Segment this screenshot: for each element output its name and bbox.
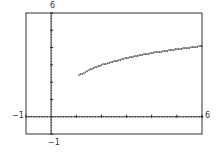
y-axis-dot <box>51 50 52 51</box>
x-axis-dot <box>175 116 176 117</box>
curve-point <box>145 53 146 54</box>
curve-point <box>123 58 124 59</box>
curve-point <box>91 68 92 69</box>
y-axis-dot <box>51 109 52 110</box>
x-axis-dot <box>167 116 168 117</box>
curve-point <box>107 62 108 63</box>
x-axis-dot <box>58 116 59 117</box>
x-axis-dot <box>90 116 91 117</box>
x-axis-dot <box>47 116 48 117</box>
curve-point <box>131 56 132 57</box>
y-axis-dot <box>51 26 52 27</box>
x-axis-dot <box>66 116 67 117</box>
x-axis-dot <box>181 116 182 117</box>
x-axis-dot <box>103 116 104 117</box>
curve-point <box>106 63 107 64</box>
curve-point <box>148 53 149 54</box>
x-axis-dot <box>117 116 118 117</box>
xmax-label: 6 <box>205 112 210 120</box>
curve-point <box>110 61 111 62</box>
y-axis-dot <box>51 71 52 72</box>
curve-point <box>161 51 162 52</box>
x-axis-dot <box>199 116 200 117</box>
x-axis-dot <box>87 116 88 117</box>
curve-point <box>95 66 96 67</box>
y-axis-dot <box>51 19 52 20</box>
y-axis-dot <box>51 37 52 38</box>
x-axis-dot <box>173 116 174 117</box>
xmin-label: −1 <box>12 112 24 120</box>
axis-ticks <box>26 13 202 134</box>
y-axis-dot <box>51 125 52 126</box>
x-axis-dot <box>74 116 75 117</box>
x-axis-dot <box>160 116 161 117</box>
y-axis-dot <box>51 119 52 120</box>
curve-point <box>93 67 94 68</box>
x-axis-dot <box>92 116 93 117</box>
x-axis-dot <box>140 116 141 117</box>
y-axis-dot <box>51 104 52 105</box>
x-axis-dot <box>60 116 61 117</box>
chart-plot <box>0 0 217 154</box>
y-axis-dot <box>51 96 52 97</box>
y-axis-dot <box>51 115 52 116</box>
x-axis-dot <box>55 116 56 117</box>
x-axis-dot <box>170 116 171 117</box>
curve-point <box>126 57 127 58</box>
x-axis-dot <box>64 116 65 117</box>
curve-point <box>157 51 158 52</box>
curve-point <box>176 48 177 49</box>
y-axis-dot <box>51 39 52 40</box>
x-axis-dot <box>48 116 49 117</box>
curve-point <box>187 47 188 48</box>
x-axis-dot <box>132 116 133 117</box>
x-axis-dot <box>40 116 41 117</box>
curve-point <box>137 55 138 56</box>
x-axis-dot <box>186 116 187 117</box>
y-axis-dot <box>51 40 52 41</box>
y-axis-dot <box>51 112 52 113</box>
curve-point <box>165 50 166 51</box>
curve-point <box>186 47 187 48</box>
curve-point <box>96 66 97 67</box>
y-axis-dot <box>51 48 52 49</box>
y-axis-dot <box>51 32 52 33</box>
y-axis-dot <box>51 95 52 96</box>
y-axis-dot <box>51 111 52 112</box>
x-axis-dot <box>135 116 136 117</box>
curve-point <box>128 57 129 58</box>
curve-point <box>143 53 144 54</box>
curve-point <box>115 60 116 61</box>
y-axis-dot <box>51 55 52 56</box>
y-axis-dot <box>51 42 52 43</box>
x-axis-dot <box>197 116 198 117</box>
x-axis-dot <box>28 116 29 117</box>
curve-point <box>139 54 140 55</box>
x-axis-dot <box>180 116 181 117</box>
x-axis-dot <box>122 116 123 117</box>
y-axis-dot <box>51 87 52 88</box>
y-axis-dot <box>51 31 52 32</box>
curve-point <box>194 46 195 47</box>
y-axis-dot <box>51 101 52 102</box>
curve-point <box>146 53 147 54</box>
y-axis-dot <box>51 130 52 131</box>
curve-point <box>90 68 91 69</box>
curve-point <box>87 70 88 71</box>
curve-point <box>151 52 152 53</box>
x-axis-dot <box>164 116 165 117</box>
y-axis-dot <box>51 117 52 118</box>
y-axis-dot <box>51 15 52 16</box>
curve-point <box>78 74 79 75</box>
curve-point <box>178 48 179 49</box>
y-axis-dot <box>51 51 52 52</box>
x-axis-dot <box>178 116 179 117</box>
curve-point <box>142 54 143 55</box>
x-axis-dot <box>168 116 169 117</box>
x-axis-dot <box>141 116 142 117</box>
x-axis-dot <box>114 116 115 117</box>
x-axis-dot <box>106 116 107 117</box>
ymin-label: −1 <box>48 139 60 147</box>
y-axis-dot <box>51 35 52 36</box>
x-axis-dot <box>85 116 86 117</box>
